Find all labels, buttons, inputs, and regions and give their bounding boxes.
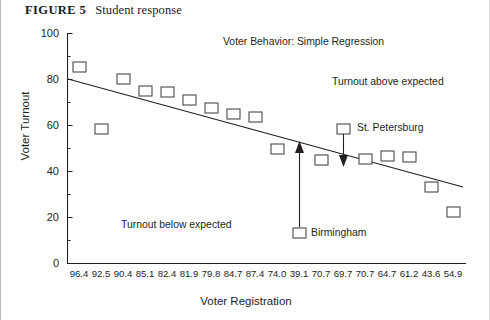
y-axis-label: Voter Turnout (19, 71, 31, 181)
x-tick-label: 61.2 (400, 268, 419, 280)
data-point (403, 152, 416, 162)
x-tick-label: 81.9 (180, 268, 199, 280)
x-tick-label: 84.7 (224, 268, 243, 280)
x-tick-label: 79.8 (202, 268, 221, 280)
x-tick-labels: 96.4 92.5 90.4 85.1 82.4 81.9 79.8 84.7 … (67, 268, 466, 284)
y-tick-0: 0 (29, 258, 59, 269)
x-tick-label: 70.7 (356, 268, 375, 280)
below-expected-annotation: Turnout below expected (121, 219, 232, 231)
y-tick-80: 80 (29, 74, 59, 85)
x-tick-label: 74.0 (268, 268, 287, 280)
y-tick-60: 60 (29, 120, 59, 131)
data-point (161, 87, 174, 97)
data-point (315, 155, 328, 165)
st-petersburg-annotation: St. Petersburg (357, 122, 423, 134)
data-point-birmingham (293, 228, 306, 238)
data-point (205, 103, 218, 113)
x-tick-label: 54.9 (444, 268, 463, 280)
data-point-st-petersburg (337, 124, 350, 134)
chart-title-annotation: Voter Behavior: Simple Regression (223, 36, 384, 48)
birmingham-annotation: Birmingham (311, 227, 366, 239)
figure-number: FIGURE 5 (25, 3, 86, 17)
data-point (183, 95, 196, 105)
data-point (447, 207, 460, 217)
data-point (95, 124, 108, 134)
y-tick-40: 40 (29, 166, 59, 177)
y-tick-100: 100 (29, 28, 59, 39)
x-tick-label: 69.7 (334, 268, 353, 280)
x-tick-label: 92.5 (92, 268, 111, 280)
data-point (271, 144, 284, 154)
x-tick-label: 96.4 (70, 268, 89, 280)
data-point (381, 151, 394, 161)
figure-caption: FIGURE 5Student response (25, 3, 182, 18)
birmingham-arrow (295, 141, 304, 227)
x-tick-label: 64.7 (378, 268, 397, 280)
data-point (227, 109, 240, 119)
data-point (425, 182, 438, 192)
data-point (117, 74, 130, 84)
y-tick-20: 20 (29, 212, 59, 223)
x-tick-label: 90.4 (114, 268, 133, 280)
figure-title: Student response (95, 3, 182, 17)
data-markers (73, 62, 460, 238)
st-petersburg-arrow (339, 134, 348, 167)
x-tick-label: 70.7 (312, 268, 331, 280)
x-tick-label: 87.4 (246, 268, 265, 280)
data-point (359, 154, 372, 164)
x-tick-label: 82.4 (158, 268, 177, 280)
plot-area: Voter Behavior: Simple Regression Turnou… (67, 33, 466, 264)
x-tick-label: 43.6 (422, 268, 441, 280)
data-point (73, 62, 86, 72)
data-point (249, 112, 262, 122)
x-tick-label: 85.1 (136, 268, 155, 280)
figure-frame: FIGURE 5Student response 100 80 60 40 20… (0, 0, 490, 320)
x-axis-label: Voter Registration (1, 295, 490, 307)
x-tick-label: 39.1 (290, 268, 309, 280)
data-point (139, 86, 152, 96)
above-expected-annotation: Turnout above expected (332, 76, 444, 88)
